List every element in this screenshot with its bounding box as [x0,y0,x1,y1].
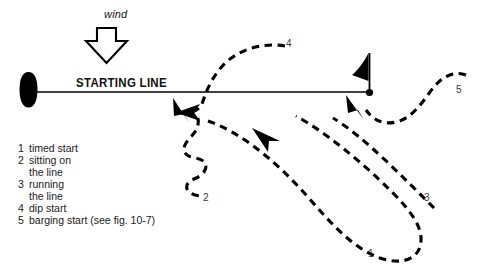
legend-text: the line [29,166,155,178]
legend-row: 5barging start (see fig. 10-7) [18,214,155,226]
path-label-3: 3 [424,192,430,204]
legend-number: 5 [18,214,29,226]
legend-number: 2 [18,154,29,166]
path-2-sitting-on-the-line [184,118,206,196]
path-1-timed-start [208,116,421,261]
path-label-1: 1 [368,248,374,260]
starting-line-label: STARTING LINE [76,76,167,91]
legend-number: 3 [18,178,29,190]
legend-text: dip start [29,202,155,214]
legend-text: running [29,178,155,190]
pennant-flag-icon [352,53,370,93]
legend-text: barging start (see fig. 10-7) [29,214,155,226]
legend-row: 3running [18,178,155,190]
path-label-5: 5 [456,84,462,96]
path-label-2: 2 [203,192,209,204]
legend-number: 1 [18,142,29,154]
legend-row: 1timed start [18,142,155,154]
legend-text: the line [29,190,155,202]
legend-text: sitting on [29,154,155,166]
arrowhead-path-5 [346,95,364,120]
path-4-dip-start [180,45,285,113]
path-3-running-the-line [333,118,434,208]
legend-row: 2sitting on [18,154,155,166]
wind-label: wind [104,8,127,21]
path-label-4: 4 [286,38,292,50]
legend-row: 4dip start [18,202,155,214]
path-5-barging-start [366,74,466,123]
figure-canvas: wind STARTING LINE 4 5 3 2 1 1timed star… [0,0,487,278]
legend-number: 4 [18,202,29,214]
legend-row: 2the line [18,166,155,178]
legend-text: timed start [29,142,155,154]
committee-boat-icon [20,72,38,108]
diagram-artwork [0,0,487,278]
legend-row: 3the line [18,190,155,202]
legend: 1timed start2sitting on2the line3running… [18,142,155,226]
wind-arrow-icon [86,28,127,63]
